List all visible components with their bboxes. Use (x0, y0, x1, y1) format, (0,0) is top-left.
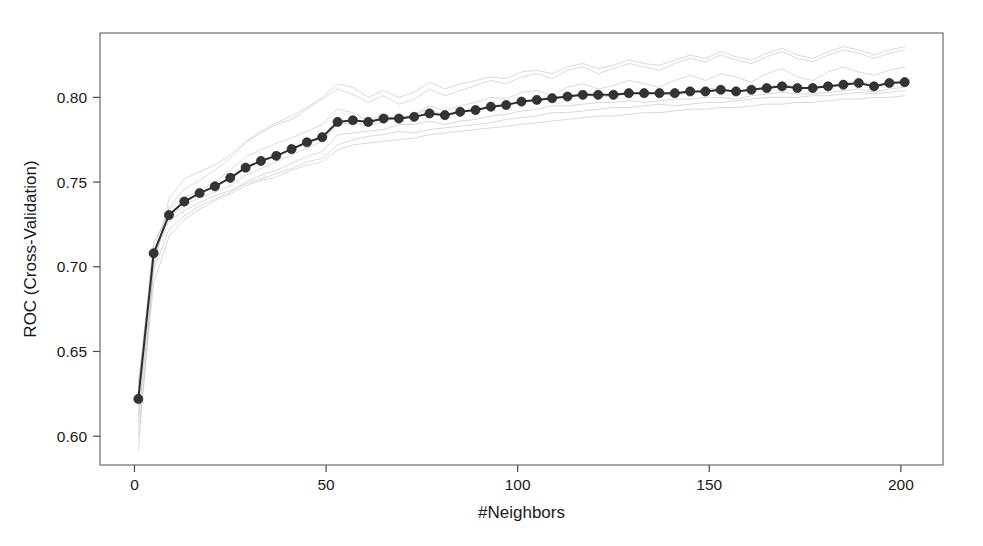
x-tick-label: 100 (505, 476, 531, 493)
data-point (686, 87, 695, 96)
data-point (425, 109, 434, 118)
data-point (379, 114, 388, 123)
data-point (869, 82, 878, 91)
data-point (701, 87, 710, 96)
x-tick-label: 0 (130, 476, 139, 493)
x-axis-title: #Neighbors (478, 503, 565, 522)
data-point (318, 133, 327, 142)
data-point (624, 89, 633, 98)
data-point (517, 97, 526, 106)
y-tick-label: 0.65 (57, 343, 87, 360)
y-tick-label: 0.60 (57, 428, 88, 445)
data-point (548, 94, 557, 103)
data-point (839, 80, 848, 89)
data-point (456, 107, 465, 116)
data-point (854, 78, 863, 87)
data-point (532, 95, 541, 104)
data-point (241, 163, 250, 172)
y-tick-label: 0.80 (57, 89, 88, 106)
data-point (440, 111, 449, 120)
data-point (287, 144, 296, 153)
x-tick-label: 50 (317, 476, 335, 493)
figure-background (0, 0, 983, 546)
data-point (885, 78, 894, 87)
data-point (747, 85, 756, 94)
y-tick-label: 0.70 (57, 258, 88, 275)
data-point (762, 83, 771, 92)
data-point (578, 90, 587, 99)
x-tick-label: 200 (888, 476, 914, 493)
data-point (640, 89, 649, 98)
data-point (134, 394, 143, 403)
data-point (210, 182, 219, 191)
data-point (716, 85, 725, 94)
data-point (256, 156, 265, 165)
data-point (333, 117, 342, 126)
data-point (364, 117, 373, 126)
data-point (793, 83, 802, 92)
data-point (808, 83, 817, 92)
data-point (731, 87, 740, 96)
x-tick-label: 150 (696, 476, 722, 493)
y-tick-label: 0.75 (57, 174, 87, 191)
data-point (823, 82, 832, 91)
data-point (609, 90, 618, 99)
data-point (394, 114, 403, 123)
data-point (471, 105, 480, 114)
data-point (502, 100, 511, 109)
data-point (272, 151, 281, 160)
roc-neighbors-chart: 050100150200 0.600.650.700.750.80 #Neigh… (0, 0, 983, 546)
data-point (348, 116, 357, 125)
data-point (410, 112, 419, 121)
data-point (195, 188, 204, 197)
data-point (900, 78, 909, 87)
chart-canvas: 050100150200 0.600.650.700.750.80 #Neigh… (0, 0, 983, 546)
data-point (563, 92, 572, 101)
data-point (777, 82, 786, 91)
data-point (302, 138, 311, 147)
y-axis-title: ROC (Cross-Validation) (21, 160, 40, 337)
data-point (180, 197, 189, 206)
data-point (670, 89, 679, 98)
data-point (164, 211, 173, 220)
data-point (655, 89, 664, 98)
data-point (149, 249, 158, 258)
data-point (226, 173, 235, 182)
data-point (594, 90, 603, 99)
data-point (486, 102, 495, 111)
